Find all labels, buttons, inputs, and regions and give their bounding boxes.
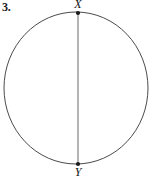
point-x-label: X — [70, 0, 86, 10]
circle-outline — [4, 12, 148, 164]
point-y-label: Y — [70, 166, 86, 178]
point-x-marker — [76, 11, 80, 15]
geometry-figure: 3. X Y — [0, 0, 149, 183]
circle-diagram-canvas — [0, 0, 149, 183]
